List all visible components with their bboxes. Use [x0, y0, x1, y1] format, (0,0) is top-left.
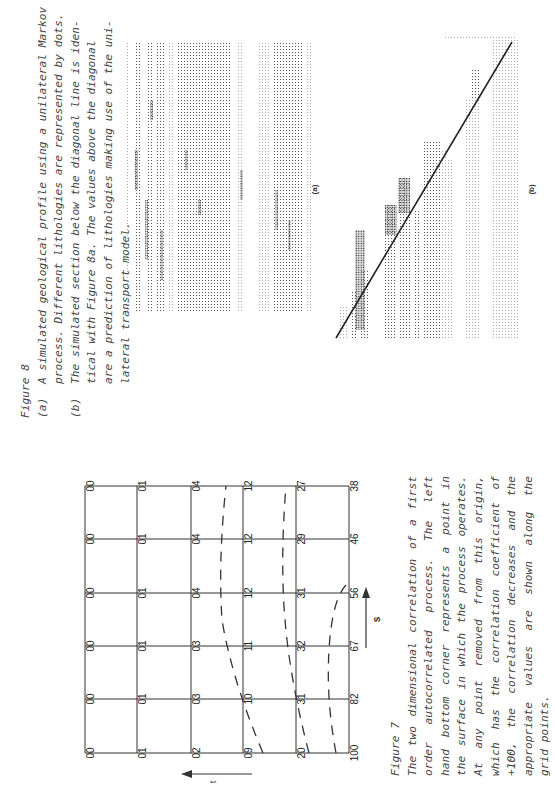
grid-value: 04 [192, 582, 202, 604]
grid-value: 03 [192, 688, 202, 710]
grid-value: 10 [244, 688, 254, 710]
figure7-title: Figure 7 [388, 476, 405, 776]
grid-value: 00 [86, 688, 96, 710]
figure7-contours [221, 486, 346, 753]
grid-value: 11 [244, 635, 254, 657]
grid-value: 46 [350, 528, 360, 550]
grid-value: 00 [86, 475, 96, 497]
figure8a-label: (a) [310, 185, 319, 195]
figure7-caption-line6: which has the correlation coefficient of [488, 476, 505, 776]
figure8a-profile [126, 41, 313, 311]
grid-value: 04 [192, 528, 202, 550]
figure7-grid [85, 486, 349, 753]
figure7-caption-line8: appropriate values are shown along the [521, 476, 538, 776]
grid-value: 31 [297, 582, 307, 604]
grid-value: 01 [138, 475, 148, 497]
figure7-caption-line7: +100, the correlation decreases and the [504, 476, 521, 776]
grid-value: 01 [138, 582, 148, 604]
s-axis-arrow [362, 587, 370, 648]
grid-value: 00 [86, 528, 96, 550]
grid-value: 56 [350, 582, 360, 604]
grid-value: 27 [297, 475, 307, 497]
grid-value: 00 [86, 582, 96, 604]
t-axis-label: t [208, 781, 218, 784]
figure7-caption-line1: The two dimensional correlation of a fir… [405, 476, 422, 776]
grid-value: 01 [138, 742, 148, 764]
grid-value: 67 [350, 635, 360, 657]
grid-value: 12 [244, 475, 254, 497]
grid-value: 12 [244, 582, 254, 604]
grid-value: 00 [86, 635, 96, 657]
grid-value: 01 [138, 635, 148, 657]
grid-value: 31 [297, 688, 307, 710]
s-axis-label: s [371, 617, 382, 623]
grid-value: 01 [138, 688, 148, 710]
grid-value: 29 [297, 528, 307, 550]
grid-value: 20 [297, 742, 307, 764]
grid-value: 00 [86, 742, 96, 764]
figure7-caption-line3: hand bottom corner represents a point in [438, 476, 455, 776]
grid-value: 12 [244, 528, 254, 550]
figure8b-label: (b) [527, 184, 536, 194]
figure7-caption: Figure 7 The two dimensional correlation… [388, 476, 554, 776]
grid-value: 09 [244, 742, 254, 764]
figure7-caption-line9: grid points. [537, 476, 554, 776]
grid-value: 38 [350, 475, 360, 497]
grid-value: 02 [192, 742, 202, 764]
grid-value: 01 [138, 528, 148, 550]
figure7-caption-line2: order autocorrelated process. The left [421, 476, 438, 776]
grid-value: 32 [297, 635, 307, 657]
t-axis-arrow [181, 770, 252, 778]
grid-value: 82 [350, 688, 360, 710]
grid-value: 04 [192, 475, 202, 497]
figure8b-profile [336, 37, 520, 338]
grid-value: 03 [192, 635, 202, 657]
figure7-caption-line5: At any point removed from this origin, [471, 476, 488, 776]
figure7-caption-line4: the surface in which the process operate… [454, 476, 471, 776]
grid-value: 100 [350, 742, 360, 764]
